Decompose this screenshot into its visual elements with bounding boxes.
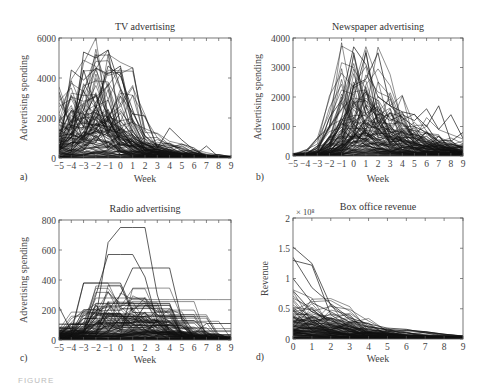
panel-a: −5−4−3−2−101234567890200040006000TV adve… xyxy=(18,21,234,184)
x-tick-label: 5 xyxy=(412,159,417,169)
x-tick-label: −4 xyxy=(300,159,310,169)
y-tick-label: 0 xyxy=(285,335,290,345)
series-group xyxy=(293,43,463,156)
x-tick-label: 0 xyxy=(291,342,296,352)
panel-label: d) xyxy=(256,352,264,363)
series-group xyxy=(59,38,231,158)
y-axis-label: Revenue xyxy=(259,260,270,296)
y-tick-label: 6000 xyxy=(37,34,56,44)
y-tick-label: 4000 xyxy=(37,74,56,84)
panel-label: a) xyxy=(20,172,27,183)
x-tick-label: 7 xyxy=(423,342,428,352)
x-tick-label: 9 xyxy=(229,343,234,353)
x-tick-label: 7 xyxy=(204,161,209,171)
chart-title: Radio advertising xyxy=(110,203,181,214)
chart-title: Newspaper advertising xyxy=(332,21,424,32)
x-tick-label: 2 xyxy=(376,159,381,169)
y-tick-label: 800 xyxy=(42,216,57,226)
y-tick-label: 2 xyxy=(285,214,290,224)
y-tick-label: 3000 xyxy=(271,63,290,73)
x-tick-label: −4 xyxy=(66,343,76,353)
x-tick-label: −2 xyxy=(91,343,101,353)
x-tick-label: 0 xyxy=(351,159,356,169)
x-tick-label: 6 xyxy=(424,159,429,169)
panel-label: b) xyxy=(256,172,264,183)
x-tick-label: 3 xyxy=(347,342,352,352)
x-tick-label: 0 xyxy=(118,161,123,171)
x-axis-label: Week xyxy=(367,353,390,364)
panel-b: −5−4−3−2−1012345678901000200030004000New… xyxy=(252,21,466,184)
x-tick-label: 6 xyxy=(192,343,197,353)
x-tick-label: −1 xyxy=(103,161,113,171)
x-tick-label: 4 xyxy=(400,159,405,169)
figure-caption-fragment: FIGURE xyxy=(18,376,54,385)
x-axis-label: Week xyxy=(134,354,157,365)
x-tick-label: 8 xyxy=(442,342,447,352)
x-tick-label: 9 xyxy=(461,159,466,169)
x-tick-label: 8 xyxy=(448,159,453,169)
x-tick-label: 1 xyxy=(130,161,135,171)
x-tick-label: −1 xyxy=(103,343,113,353)
x-tick-label: −2 xyxy=(324,159,334,169)
x-tick-label: 7 xyxy=(436,159,441,169)
figure-canvas: −5−4−3−2−101234567890200040006000TV adve… xyxy=(0,0,484,385)
x-tick-label: −3 xyxy=(312,159,322,169)
y-tick-label: 600 xyxy=(42,246,57,256)
x-tick-label: −3 xyxy=(79,343,89,353)
series-group xyxy=(293,247,463,339)
x-axis-label: Week xyxy=(367,173,390,184)
series-group xyxy=(59,228,231,341)
y-tick-label: 0 xyxy=(51,154,56,164)
x-tick-label: 3 xyxy=(155,161,160,171)
x-tick-label: 0 xyxy=(118,343,123,353)
y-tick-label: 4000 xyxy=(271,34,290,44)
x-tick-label: 2 xyxy=(143,343,148,353)
y-scale-label: × 10⁸ xyxy=(296,207,314,217)
x-axis-label: Week xyxy=(134,173,157,184)
chart-title: Box office revenue xyxy=(340,201,417,212)
panel-c: −5−4−3−2−101234567890200400600800Radio a… xyxy=(18,203,234,365)
y-tick-label: 2000 xyxy=(271,93,290,103)
x-tick-label: 2 xyxy=(143,161,148,171)
y-tick-label: 0.5 xyxy=(278,304,290,314)
y-tick-label: 400 xyxy=(42,276,57,286)
x-tick-label: 2 xyxy=(328,342,333,352)
y-tick-label: 0 xyxy=(51,336,56,346)
y-axis-label: Advertising spending xyxy=(18,237,29,323)
y-tick-label: 2000 xyxy=(37,114,56,124)
x-tick-label: 8 xyxy=(216,161,221,171)
x-tick-label: 1 xyxy=(130,343,135,353)
panel-d: 012345678900.511.52Box office revenueWee… xyxy=(256,201,466,364)
y-axis-label: Advertising spending xyxy=(18,55,29,141)
x-tick-label: 4 xyxy=(366,342,371,352)
y-tick-label: 200 xyxy=(42,306,57,316)
x-tick-label: 6 xyxy=(404,342,409,352)
x-tick-label: 3 xyxy=(388,159,393,169)
y-tick-label: 1.5 xyxy=(278,244,290,254)
x-tick-label: 6 xyxy=(192,161,197,171)
x-tick-label: 8 xyxy=(216,343,221,353)
x-tick-label: 9 xyxy=(229,161,234,171)
x-tick-label: −1 xyxy=(337,159,347,169)
y-tick-label: 1000 xyxy=(271,122,290,132)
x-tick-label: 5 xyxy=(385,342,390,352)
x-tick-label: 7 xyxy=(204,343,209,353)
x-tick-label: 4 xyxy=(167,343,172,353)
y-tick-label: 1 xyxy=(285,274,290,284)
x-tick-label: 3 xyxy=(155,343,160,353)
x-tick-label: −4 xyxy=(66,161,76,171)
x-tick-label: 9 xyxy=(461,342,466,352)
y-axis-label: Advertising spending xyxy=(252,54,263,140)
chart-title: TV advertising xyxy=(115,21,175,32)
y-tick-label: 0 xyxy=(285,152,290,162)
x-tick-label: 1 xyxy=(363,159,368,169)
x-tick-label: 1 xyxy=(310,342,315,352)
x-tick-label: 5 xyxy=(179,343,184,353)
x-tick-label: 5 xyxy=(179,161,184,171)
x-tick-label: −3 xyxy=(79,161,89,171)
x-tick-label: −2 xyxy=(91,161,101,171)
panel-label: c) xyxy=(20,353,27,364)
x-tick-label: 4 xyxy=(167,161,172,171)
